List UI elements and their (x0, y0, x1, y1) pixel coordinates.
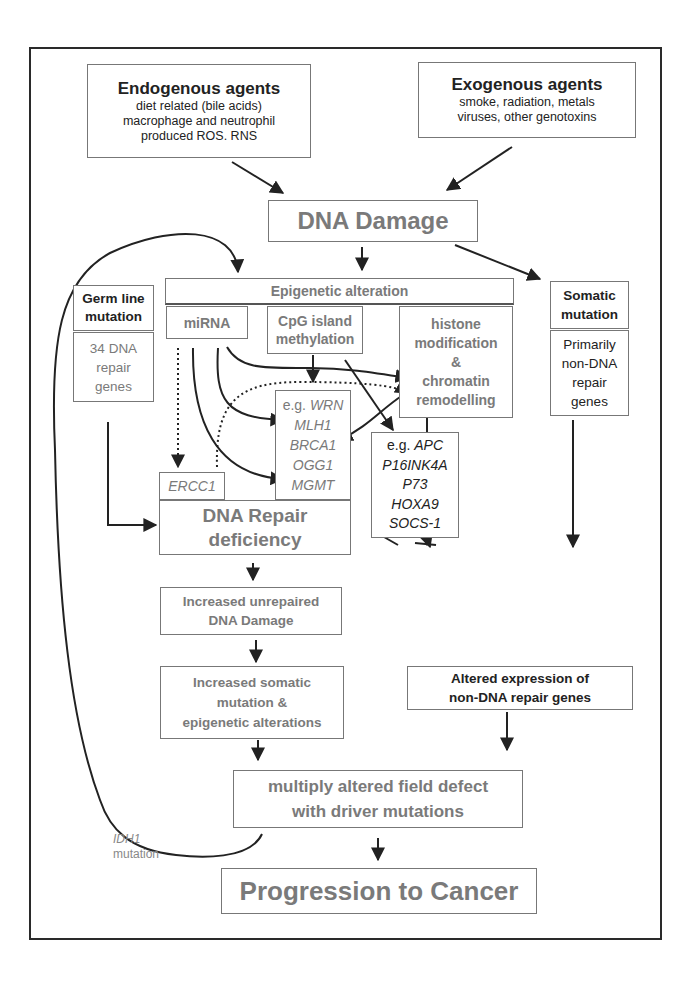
germ-line-body: 34 DNA (90, 339, 137, 358)
cpg-line: methylation (276, 330, 355, 348)
mirna-box: miRNA (166, 306, 248, 339)
progression-to-cancer-box: Progression to Cancer (221, 868, 537, 914)
gene-p16ink4a: P16INK4A (382, 456, 447, 476)
cpg-methylation-box: CpG island methylation (267, 306, 363, 354)
dna-repair-genes-box: e.g. WRN MLH1 BRCA1 OGG1 MGMT (275, 390, 351, 500)
unrepaired-line: DNA Damage (208, 611, 293, 630)
somatic-title: Somatic (563, 286, 616, 305)
germ-line-title: mutation (85, 308, 142, 326)
germ-line-body: repair (96, 358, 131, 377)
increased-somatic-box: Increased somatic mutation & epigenetic … (160, 666, 344, 739)
somatic-mutation-body-box: Primarily non-DNA repair genes (550, 330, 629, 416)
histone-line: modification (414, 334, 497, 353)
germ-line-body: genes (95, 377, 132, 396)
gene-mgmt: MGMT (292, 475, 335, 495)
idh1-gene: IDH1 (113, 832, 159, 847)
mirna-label: miRNA (184, 315, 231, 331)
exogenous-agents-box: Exogenous agents smoke, radiation, metal… (418, 62, 636, 138)
histone-line: & (451, 353, 461, 372)
progression-label: Progression to Cancer (240, 876, 519, 907)
gene-hoxa9: HOXA9 (391, 495, 438, 515)
non-dna-repair-genes-box: e.g. APC P16INK4A P73 HOXA9 SOCS-1 (371, 432, 459, 538)
gene-brca1: BRCA1 (290, 435, 337, 455)
endogenous-line: produced ROS. RNS (141, 129, 257, 144)
histone-line: histone (431, 315, 481, 334)
idh1-word: mutation (113, 847, 159, 862)
deficiency-line: deficiency (209, 528, 302, 552)
idh1-mutation-label: IDH1 mutation (113, 832, 159, 862)
gene-ercc1: ERCC1 (168, 478, 215, 494)
gene-p73: P73 (403, 475, 428, 495)
histone-chromatin-box: histone modification & chromatin remodel… (399, 306, 513, 418)
dna-damage-label: DNA Damage (297, 207, 448, 235)
epigenetic-alteration-label: Epigenetic alteration (271, 283, 409, 299)
endogenous-title: Endogenous agents (118, 79, 280, 99)
field-defect-line: multiply altered field defect (268, 774, 488, 799)
altered-expression-line: non-DNA repair genes (449, 688, 591, 707)
non-repair-prefix: e.g. (387, 437, 414, 453)
endogenous-line: diet related (bile acids) (136, 99, 262, 114)
increased-somatic-line: epigenetic alterations (183, 713, 322, 733)
field-defect-line: with driver mutations (292, 799, 464, 824)
histone-line: chromatin (422, 372, 490, 391)
cpg-line: CpG island (278, 312, 352, 330)
increased-somatic-line: Increased somatic (193, 673, 311, 693)
gene-ogg1: OGG1 (293, 455, 333, 475)
repair-genes-prefix: e.g. (283, 397, 310, 413)
altered-expression-line: Altered expression of (451, 669, 589, 688)
somatic-body: non-DNA (562, 354, 618, 373)
epigenetic-alteration-box: Epigenetic alteration (165, 278, 514, 305)
increased-unrepaired-box: Increased unrepaired DNA Damage (160, 587, 342, 635)
somatic-body: genes (571, 392, 608, 411)
germ-line-body-box: 34 DNA repair genes (73, 332, 154, 402)
exogenous-line: viruses, other genotoxins (458, 110, 597, 125)
gene-mlh1: MLH1 (294, 415, 331, 435)
germ-line-title: Germ line (82, 290, 144, 308)
field-defect-box: multiply altered field defect with drive… (233, 770, 523, 828)
gene-apc: APC (414, 437, 443, 453)
increased-somatic-line: mutation & (217, 693, 288, 713)
endogenous-line: macrophage and neutrophil (123, 114, 275, 129)
somatic-body: repair (572, 373, 607, 392)
gene-socs1: SOCS-1 (389, 514, 441, 534)
histone-line: remodelling (416, 391, 495, 410)
ercc1-box: ERCC1 (159, 472, 225, 500)
endogenous-agents-box: Endogenous agents diet related (bile aci… (87, 64, 311, 158)
deficiency-line: DNA Repair (203, 504, 308, 528)
somatic-body: Primarily (563, 335, 616, 354)
exogenous-line: smoke, radiation, metals (459, 95, 594, 110)
altered-expression-box: Altered expression of non-DNA repair gen… (407, 666, 633, 710)
germ-line-title-box: Germ line mutation (73, 285, 154, 331)
gene-wrn: WRN (310, 397, 343, 413)
dna-damage-box: DNA Damage (268, 200, 478, 242)
dna-repair-deficiency-box: DNA Repair deficiency (159, 500, 351, 555)
somatic-title: mutation (561, 305, 618, 324)
exogenous-title: Exogenous agents (451, 75, 602, 95)
somatic-mutation-title-box: Somatic mutation (550, 281, 629, 329)
unrepaired-line: Increased unrepaired (183, 592, 320, 611)
